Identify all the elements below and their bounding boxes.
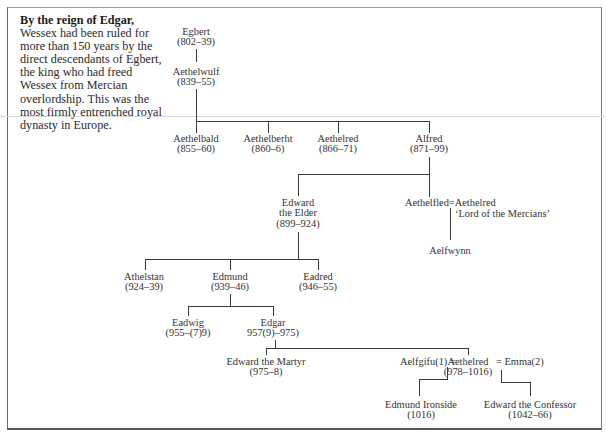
node-edgar: Edgar 957(9)–975) [247, 318, 299, 339]
connector [298, 174, 299, 196]
connector [450, 208, 451, 240]
node-egbert: Egbert (802–39) [177, 27, 215, 48]
node-edward-the-confessor: Edward the Confessor (1042–66) [484, 400, 576, 421]
node-edward-the-elder: Edward the Elder (899–924) [276, 198, 319, 229]
node-dates: (866–71) [318, 144, 359, 154]
connector [501, 370, 502, 382]
node-dates: (924–39) [124, 282, 164, 292]
connector [145, 259, 319, 260]
connector [196, 49, 197, 62]
connector [268, 121, 269, 133]
intro-body: Wessex had been ruled for more than 150 … [20, 26, 162, 132]
intro-caption: By the reign of Edgar, Wessex had been r… [20, 14, 170, 132]
connector [501, 382, 531, 383]
spouse-title: ‘Lord of the Mercians’ [455, 209, 550, 219]
connector [468, 348, 469, 355]
node-dates: (839–55) [173, 77, 220, 87]
node-name: Aelfwynn [429, 246, 471, 256]
spouse-name: Aethelred [455, 197, 496, 208]
node-athelstan: Athelstan (924–39) [124, 272, 164, 293]
node-dates: (899–924) [276, 219, 319, 229]
node-dates: (939–46) [211, 282, 249, 292]
connector [318, 259, 319, 270]
node-alfred: Alfred (871–99) [410, 134, 448, 155]
node-dates: (946–55) [299, 282, 337, 292]
node-dates: (860–6) [243, 144, 292, 154]
connector [188, 306, 189, 316]
node-aethelberht: Aethelberht (860–6) [243, 134, 292, 155]
node-dates: (978–1016) [444, 367, 492, 377]
node-eadred: Eadred (946–55) [299, 272, 337, 293]
connector [188, 306, 274, 307]
node-aethelbald: Aethelbald (855–60) [173, 134, 219, 155]
connector [230, 259, 231, 270]
node-aethelwulf: Aethelwulf (839–55) [173, 67, 220, 88]
node-dates: (871–99) [410, 144, 448, 154]
node-edmund: Edmund (939–46) [211, 272, 249, 293]
node-dates: (955–(7)9) [165, 328, 210, 338]
node-dates: (802–39) [177, 37, 215, 47]
node-eadwig: Eadwig (955–(7)9) [165, 318, 210, 339]
node-aethelred-i: Aethelred (866–71) [318, 134, 359, 155]
connector [275, 340, 276, 348]
connector [196, 121, 430, 122]
node-edmund-ironside: Edmund Ironside (1016) [385, 400, 457, 421]
node-dates: (1016) [385, 410, 457, 420]
connector [429, 121, 430, 133]
node-aethelfled: Aethelfled=Aethelred [405, 198, 496, 208]
connector [266, 348, 267, 355]
wife-emma: = Emma(2) [496, 357, 544, 367]
connector [196, 89, 197, 121]
node-dates: (1042–66) [484, 410, 576, 420]
node-dates: 957(9)–975) [247, 328, 299, 338]
node-dates: (855–60) [173, 144, 219, 154]
connector [419, 379, 448, 380]
intro-lead: By the reign of Edgar, [20, 13, 134, 27]
node-name: Aethelfled [405, 197, 449, 208]
node-aelfwynn: Aelfwynn [429, 246, 471, 256]
connector [530, 382, 531, 396]
connector [196, 121, 197, 133]
node-aethelred-ii: Aethelred (978–1016) [444, 357, 492, 378]
node-edward-the-martyr: Edward the Martyr (975–8) [226, 357, 305, 378]
connector [419, 379, 420, 396]
connector [298, 232, 299, 259]
node-dates: (975–8) [226, 367, 305, 377]
connector [298, 174, 430, 175]
connector [338, 121, 339, 133]
connector [429, 157, 430, 197]
connector [230, 294, 231, 306]
connector [145, 259, 146, 270]
connector [266, 348, 468, 349]
connector [273, 306, 274, 316]
